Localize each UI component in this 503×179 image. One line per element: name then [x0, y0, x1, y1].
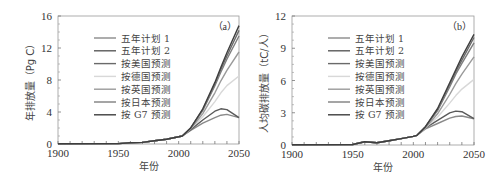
legend-label: 按日本预测: [121, 97, 171, 108]
y-tick-label: 12: [41, 42, 52, 54]
legend-label: 五年计划 1: [355, 33, 404, 44]
y-tick-label: 3: [281, 107, 287, 119]
x-tick-label: 2050: [463, 148, 486, 160]
x-tick-label: 2050: [228, 147, 251, 159]
legend-label: 按美国预测: [121, 58, 171, 69]
y-axis-label: 年排放量（Pg C）: [24, 39, 36, 122]
y-tick-label: 6: [281, 75, 287, 87]
legend-label: 按日本预测: [355, 97, 405, 108]
x-tick-label: 1900: [281, 148, 304, 160]
legend-label: 按 G7 预测: [355, 109, 405, 120]
x-tick-label: 2000: [402, 148, 425, 160]
series-line: [292, 116, 474, 145]
legend-label: 五年计划 2: [355, 45, 404, 56]
legend-label: 按 G7 预测: [121, 109, 171, 120]
legend-label: 五年计划 2: [121, 45, 170, 56]
x-tick-label: 2000: [168, 147, 191, 159]
legend-label: 按美国预测: [355, 58, 405, 69]
panel-label: （b）: [447, 21, 472, 32]
legend-label: 按德国预测: [121, 71, 171, 82]
chart-panel-b: 0369121900195020002050年份人均碳排放量（tC/人）五年计划…: [258, 10, 486, 173]
y-axis-label: 人均碳排放量（tC/人）: [258, 28, 270, 132]
chart-figure: 04812161900195020002050年份年排放量（Pg C）五年计划 …: [0, 0, 503, 179]
y-tick-label: 9: [281, 42, 287, 54]
x-tick-label: 1950: [342, 148, 365, 160]
legend-label: 五年计划 1: [121, 33, 170, 44]
y-tick-label: 12: [275, 10, 286, 22]
x-axis-label: 年份: [373, 161, 393, 173]
x-axis-label: 年份: [139, 160, 159, 172]
x-tick-label: 1950: [107, 147, 130, 159]
y-tick-label: 16: [41, 10, 53, 22]
legend-label: 按德国预测: [355, 71, 405, 82]
y-tick-label: 4: [47, 106, 53, 118]
panel-label: （a）: [213, 21, 237, 32]
legend-label: 按英国预测: [355, 84, 405, 95]
chart-panel-a: 04812161900195020002050年份年排放量（Pg C）五年计划 …: [24, 10, 251, 172]
legend-label: 按英国预测: [121, 84, 171, 95]
x-tick-label: 1900: [47, 147, 70, 159]
y-tick-label: 8: [47, 74, 53, 86]
